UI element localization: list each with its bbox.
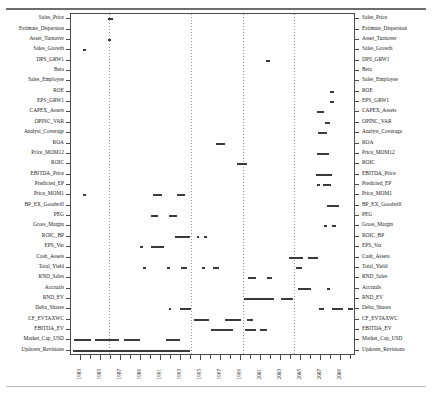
data-row [71,154,354,155]
y-axis-label-right: ROIC [362,161,375,166]
data-segment [83,194,86,196]
y-axis-label-left: ROA [53,140,64,145]
data-segment [317,111,324,113]
y-tick-right [355,174,359,175]
y-tick-right [355,215,359,216]
x-axis-label: 1997 [217,369,222,379]
data-segment [153,194,162,196]
x-axis-label: 1983 [77,369,82,379]
y-tick-right [355,80,359,81]
data-segment [143,267,146,269]
data-row [71,81,354,82]
data-segment [317,184,320,186]
y-axis-label-left: EPS_Var [45,243,64,248]
x-tick-major [120,355,121,360]
data-segment [327,288,330,290]
data-segment [308,257,318,259]
data-segment [325,122,330,124]
x-tick-minor [210,355,211,359]
y-axis-label-left: Cash_Assets [36,254,64,259]
x-tick-minor [170,355,171,359]
x-tick-major [320,355,321,360]
data-segment [266,60,270,62]
y-axis-label-left: Delta_Shares [35,306,64,311]
data-segment [124,339,140,341]
data-row [71,61,354,62]
data-segment [296,267,302,269]
y-axis-label-right: Total_Yield [362,264,387,269]
y-tick-right [355,111,359,112]
data-row [71,112,354,113]
data-segment [289,257,303,259]
y-tick-right [355,91,359,92]
data-row [71,133,354,134]
y-axis-label-right: Accruals [362,285,381,290]
y-axis-label-right: RND_Sales [362,275,387,280]
data-row [71,185,354,186]
x-axis-label: 1991 [157,369,162,379]
data-segment [151,246,164,248]
data-row [71,351,354,352]
data-segment [175,236,190,238]
data-segment [319,308,324,310]
y-tick-right [355,339,359,340]
data-segment [281,298,293,300]
y-tick-right [355,288,359,289]
y-tick-right [355,329,359,330]
y-axis-label-left: Beta [54,67,64,72]
y-axis-label-right: EBITDA_Price [362,171,396,176]
y-tick-right [355,18,359,19]
y-axis-label-left: RND_Sales [39,275,64,280]
data-segment [181,267,187,269]
data-segment [323,184,331,186]
y-axis-label-right: Delta_Shares [362,306,391,311]
data-segment [74,339,91,341]
y-axis-label-left: EBITDA_Price [30,171,64,176]
x-axis-label: 1995 [197,369,202,379]
y-axis-label-right: Gross_Margin [362,223,393,228]
data-segment [140,246,143,248]
y-axis-label-left: Price_MOM1 [34,192,64,197]
x-tick-major [80,355,81,360]
x-tick-major [280,355,281,360]
y-axis-label-right: ROA [362,140,373,145]
y-axis-label-left: Sales_Growth [33,47,64,52]
data-segment [169,308,171,310]
y-axis-label-right: EBITDA_EV [362,326,392,331]
y-axis-label-left: ROIC [51,161,64,166]
data-segment [248,277,256,279]
y-tick-right [355,277,359,278]
y-axis-label-right: CAPEX_Assets [362,109,396,114]
y-axis-label-left: OPINC_VAR [34,119,64,124]
data-segment [317,153,329,155]
y-axis-label-left: Sales_Price [39,15,64,20]
data-segment [151,215,158,217]
data-segment [244,298,274,300]
data-segment [348,308,353,310]
y-axis-label-left: EPS_GRW1 [37,98,64,103]
data-row [71,164,354,165]
y-axis-label-left: BP_EX_Goodwill [24,202,64,207]
y-axis-label-left: Predicted_EP [35,181,64,186]
data-segment [332,308,343,310]
data-segment [108,18,113,20]
plot-area [70,13,355,355]
y-axis-label-left: Updown_Revisions [21,347,64,352]
y-axis-label-right: EPS_Var [362,243,381,248]
data-row [71,258,354,259]
y-axis-label-left: Asset_Turnover [29,36,64,41]
x-axis: 1983198519871989199119931995199719992001… [70,355,355,394]
data-row [71,216,354,217]
data-segment [260,329,267,331]
data-row [71,340,354,341]
y-axis-label-right: Cash_Assets [362,254,390,259]
y-axis-label-left: Sales_Employee [28,78,64,83]
data-row [71,71,354,72]
y-tick-right [355,49,359,50]
x-tick-minor [350,355,351,359]
data-row [71,175,354,176]
x-axis-label: 2003 [277,369,282,379]
y-axis-label-right: Updown_Revisions [362,347,405,352]
y-axis-label-left: Accruals [45,285,64,290]
y-axis-label-right: EPS_GRW1 [362,98,389,103]
